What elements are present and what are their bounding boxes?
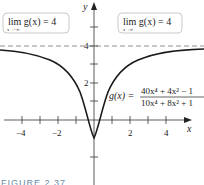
figure-caption: FIGURE 2.37	[1, 178, 66, 185]
x-tick-label: 2	[128, 128, 133, 138]
x-tick-label: 4	[164, 128, 169, 138]
x-tick-label: −4	[16, 128, 26, 138]
x-axis-label: x	[186, 123, 192, 134]
limit-right-sub: x→∞	[123, 27, 133, 32]
chart: −4 −2 2 4 2 4 x y lim g(x) = 4 x→−∞ lim …	[0, 0, 204, 185]
function-label: g(x) =	[109, 90, 134, 102]
limit-left-sub: x→−∞	[7, 27, 20, 32]
function-denominator: 10x⁴ + 8x² + 1	[141, 98, 193, 108]
function-numerator: 40x⁴ + 4x² − 1	[141, 86, 193, 96]
y-tick-label: 2	[84, 78, 89, 88]
y-tick-label: 4	[84, 41, 89, 51]
x-tick-label: −2	[52, 128, 62, 138]
y-axis-arrow-icon	[91, 2, 97, 10]
y-axis-label: y	[82, 1, 88, 12]
